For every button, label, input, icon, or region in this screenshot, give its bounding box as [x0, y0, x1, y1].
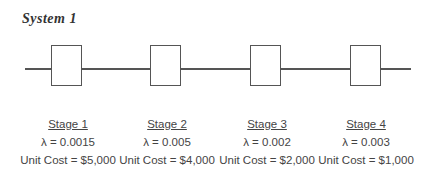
stage-name: Stage 1 — [13, 118, 123, 130]
stage-cost: Unit Cost = $1,000 — [311, 154, 421, 166]
stage-1-block — [51, 45, 82, 86]
stage-lambda: λ = 0.005 — [112, 136, 222, 148]
stage-4-block — [350, 45, 381, 86]
stage-lambda: λ = 0.0015 — [13, 136, 123, 148]
stage-3-block — [250, 45, 281, 86]
stage-lambda: λ = 0.002 — [212, 136, 322, 148]
system-title: System 1 — [22, 11, 77, 27]
stage-name: Stage 3 — [212, 118, 322, 130]
stage-cost: Unit Cost = $2,000 — [212, 154, 322, 166]
stage-cost: Unit Cost = $4,000 — [112, 154, 222, 166]
stage-lambda: λ = 0.003 — [311, 136, 421, 148]
stage-name: Stage 4 — [311, 118, 421, 130]
stage-2-block — [150, 45, 181, 86]
stage-cost: Unit Cost = $5,000 — [13, 154, 123, 166]
stage-name: Stage 2 — [112, 118, 222, 130]
